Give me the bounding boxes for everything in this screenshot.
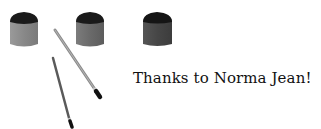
- thanks-caption: Thanks to Norma Jean!: [133, 69, 312, 87]
- paint-illustration: [0, 0, 321, 129]
- paint-pot-light: [10, 12, 38, 47]
- paint-pot-medium: [76, 12, 104, 47]
- paintbrush-short: [53, 58, 72, 127]
- paint-pot-dark: [143, 12, 172, 46]
